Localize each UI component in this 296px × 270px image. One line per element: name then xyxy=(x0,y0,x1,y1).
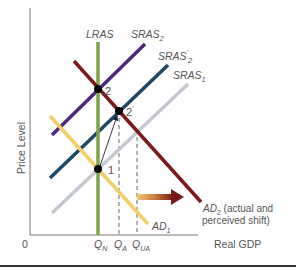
sras1-label: SRAS1 xyxy=(173,69,206,84)
x-axis-label: Real GDP xyxy=(214,238,261,250)
origin-label: 0 xyxy=(22,238,28,250)
qn-tick-label: QN xyxy=(94,238,108,252)
lras-label: LRAS xyxy=(86,28,113,40)
point-1-label: 1 xyxy=(108,164,114,176)
point-2-prime xyxy=(115,107,123,115)
point-2 xyxy=(94,85,102,93)
y-axis-label: Price Level xyxy=(15,122,27,174)
bottom-divider xyxy=(0,265,296,267)
sras2-label: SRAS2 xyxy=(131,28,165,43)
ad-shift-arrow-icon xyxy=(137,189,184,205)
sras2-prime-label: SRAS'2 xyxy=(158,48,193,65)
qua-tick-label: QUA xyxy=(132,238,150,252)
ad2-curve xyxy=(74,61,201,202)
ad-as-chart: 2 2' 1 LRAS SRAS2 SRAS'2 SRAS1 AD2 (actu… xyxy=(0,0,296,270)
ad2-note-line2: perceived shift) xyxy=(202,215,270,226)
point-1 xyxy=(94,165,102,173)
point-2-prime-label: 2' xyxy=(126,104,134,118)
ad1-label: AD1 xyxy=(151,220,171,235)
qa-tick-label: QA xyxy=(114,238,127,252)
point-2-label: 2 xyxy=(105,85,111,97)
